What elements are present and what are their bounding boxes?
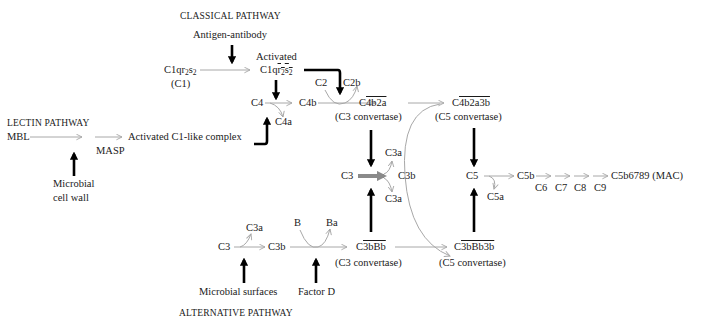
c4b2a3b-convertase: C4b2a3b bbox=[452, 97, 490, 109]
c2b-label: C2b bbox=[343, 77, 361, 89]
alternative-pathway-header: ALTERNATIVE PATHWAY bbox=[179, 307, 293, 319]
c1-label: (C1) bbox=[171, 78, 190, 90]
alt-c3-label: C3 bbox=[218, 241, 230, 253]
factor-d-label: Factor D bbox=[298, 286, 335, 298]
c3-label: C3 bbox=[341, 170, 353, 182]
c5a-label: C5a bbox=[487, 191, 504, 203]
factor-b-label: B bbox=[294, 217, 301, 229]
microbial-cell-wall-line1: Microbial bbox=[53, 178, 94, 190]
classical-c5-convertase-label: (C5 convertase) bbox=[435, 111, 502, 123]
c2-label: C2 bbox=[315, 77, 327, 89]
c9-label: C9 bbox=[594, 182, 606, 194]
c4b2a-convertase: C4b2a bbox=[359, 97, 386, 109]
alt-c5-convertase-label: (C5 convertase) bbox=[439, 257, 506, 269]
c7-label: C7 bbox=[555, 182, 567, 194]
c4a-label: C4a bbox=[275, 116, 292, 128]
pathway-arrows bbox=[0, 0, 721, 322]
mbl-label: MBL bbox=[7, 131, 30, 143]
c5-label: C5 bbox=[466, 170, 478, 182]
classical-c3-convertase-label: (C3 convertase) bbox=[335, 111, 402, 123]
mac-label: C5b6789 (MAC) bbox=[611, 170, 683, 182]
c4b-label: C4b bbox=[299, 97, 317, 109]
c3a-top-label: C3a bbox=[385, 147, 402, 159]
c8-label: C8 bbox=[574, 182, 586, 194]
classical-pathway-header: CLASSICAL PATHWAY bbox=[180, 10, 281, 22]
activated-c1-like-complex: Activated C1-like complex bbox=[128, 131, 242, 143]
alt-c3a-label: C3a bbox=[246, 222, 263, 234]
microbial-cell-wall-line2: cell wall bbox=[53, 192, 89, 204]
c5b-label: C5b bbox=[517, 170, 535, 182]
activated-c1-complex: C1qr2s2 bbox=[260, 64, 293, 76]
c3bbb3b-convertase: C3bBb3b bbox=[454, 241, 494, 253]
c4-label: C4 bbox=[251, 97, 263, 109]
c3a-bottom-label: C3a bbox=[385, 193, 402, 205]
c6-label: C6 bbox=[535, 182, 547, 194]
alt-c3b-label: C3b bbox=[268, 241, 286, 253]
microbial-surfaces-label: Microbial surfaces bbox=[199, 286, 277, 298]
lectin-pathway-header: LECTIN PATHWAY bbox=[7, 117, 90, 129]
activated-label: Activated bbox=[256, 51, 297, 63]
c3bbb-convertase: C3bBb bbox=[356, 241, 386, 253]
ba-label: Ba bbox=[326, 217, 338, 229]
c1-complex: C1qr2s2 bbox=[164, 64, 197, 76]
masp-label: MASP bbox=[96, 145, 125, 157]
alt-c3-convertase-label: (C3 convertase) bbox=[335, 257, 402, 269]
c3b-label: C3b bbox=[398, 170, 416, 182]
antigen-antibody-label: Antigen-antibody bbox=[193, 29, 267, 41]
